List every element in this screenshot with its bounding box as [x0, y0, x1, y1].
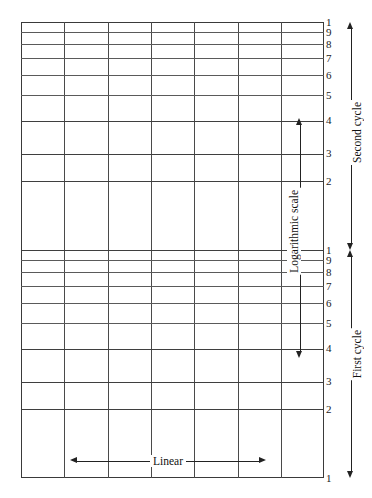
horizontal-gridline	[21, 75, 324, 76]
horizontal-gridline	[21, 260, 324, 261]
linear-axis-label: Linear	[150, 455, 186, 467]
horizontal-gridline	[21, 272, 324, 273]
y-tick-label: 8	[326, 39, 340, 50]
horizontal-gridline	[21, 323, 324, 324]
y-tick-label: 8	[326, 267, 340, 278]
horizontal-gridline	[21, 32, 324, 33]
horizontal-gridline	[21, 58, 324, 59]
horizontal-gridline	[21, 303, 324, 304]
y-tick-label: 5	[326, 318, 340, 329]
arrow-head-right-icon	[259, 457, 266, 463]
horizontal-gridline	[21, 44, 324, 45]
y-tick-label: 4	[326, 343, 340, 354]
y-tick-label: 7	[326, 281, 340, 292]
y-tick-label: 3	[326, 148, 340, 159]
horizontal-gridline	[21, 409, 324, 410]
arrow-head-down-icon	[296, 351, 302, 358]
logarithmic-scale-label: Logarithmic scale	[287, 188, 301, 275]
graph-grid	[21, 22, 324, 478]
y-tick-label: 7	[326, 53, 340, 64]
y-tick-label: 9	[326, 255, 340, 266]
y-tick-label: 5	[326, 90, 340, 101]
y-tick-label: 4	[326, 115, 340, 126]
y-tick-label: 1	[326, 473, 340, 484]
horizontal-gridline	[21, 250, 324, 251]
arrow-head-down-icon	[347, 243, 353, 250]
y-tick-label: 2	[326, 404, 340, 415]
y-tick-label: 2	[326, 176, 340, 187]
y-axis-tick-labels: 1987654321987654321	[326, 0, 340, 498]
y-tick-label: 3	[326, 376, 340, 387]
horizontal-gridline	[21, 286, 324, 287]
semilog-graph-paper-figure: 1987654321987654321 Logarithmic scale Li…	[0, 0, 372, 498]
horizontal-gridline	[21, 95, 324, 96]
horizontal-gridline	[21, 154, 324, 155]
y-tick-label: 6	[326, 298, 340, 309]
y-tick-label: 9	[326, 27, 340, 38]
horizontal-gridline	[21, 349, 324, 350]
horizontal-gridline	[21, 181, 324, 182]
first-cycle-label: First cycle	[351, 328, 363, 380]
horizontal-gridline	[21, 382, 324, 383]
y-tick-label: 6	[326, 70, 340, 81]
second-cycle-label: Second cycle	[351, 100, 363, 165]
arrow-head-down-icon	[347, 471, 353, 478]
horizontal-gridline	[21, 121, 324, 122]
